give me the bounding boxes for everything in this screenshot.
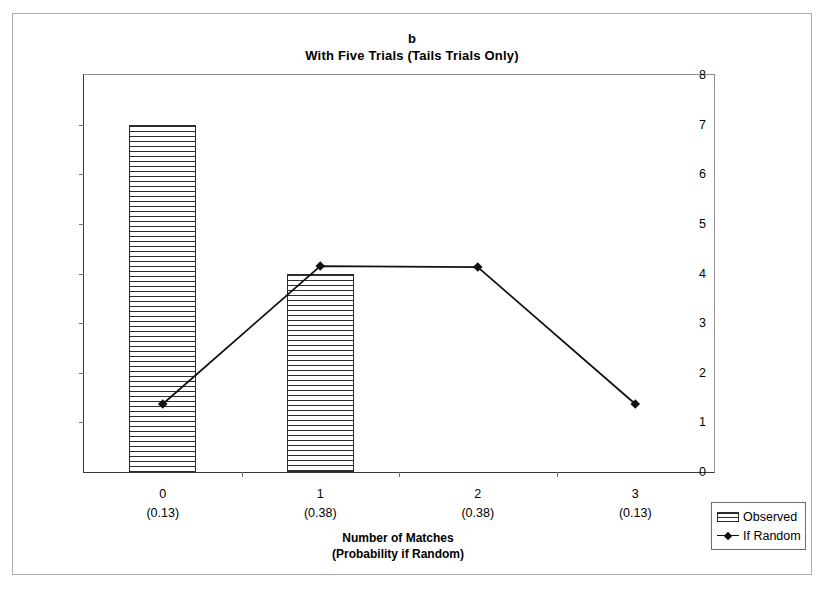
x-category-probability: (0.13) xyxy=(575,504,695,523)
plot-inner: Number of Principals 012345678 0(0.13)1(… xyxy=(84,75,714,472)
legend-label-observed: Observed xyxy=(743,510,797,524)
x-axis-title: Number of Matches (Probability if Random… xyxy=(83,530,713,562)
legend: Observed If Random xyxy=(711,502,806,550)
x-category-label: 1(0.38) xyxy=(260,485,380,523)
x-category-label: 2(0.38) xyxy=(418,485,538,523)
diamond-marker-icon xyxy=(724,531,732,539)
x-axis-title-line2: (Probability if Random) xyxy=(83,546,713,562)
legend-label-if-random: If Random xyxy=(743,529,801,543)
bar-swatch-icon xyxy=(717,512,739,522)
x-category-probability: (0.13) xyxy=(103,504,223,523)
panel-letter: b xyxy=(13,30,811,47)
plot-area: Number of Principals 012345678 0(0.13)1(… xyxy=(83,74,715,473)
chart-title: b With Five Trials (Tails Trials Only) xyxy=(13,30,811,64)
x-category-label: 3(0.13) xyxy=(575,485,695,523)
if-random-polyline xyxy=(163,266,636,404)
x-category-value: 0 xyxy=(159,487,166,501)
x-category-value: 1 xyxy=(317,487,324,501)
x-axis-title-line1: Number of Matches xyxy=(342,531,453,545)
line-marker-swatch-icon xyxy=(717,531,739,541)
x-category-label: 0(0.13) xyxy=(103,485,223,523)
x-category-value: 3 xyxy=(632,487,639,501)
if-random-line-series xyxy=(84,75,714,472)
x-category-probability: (0.38) xyxy=(260,504,380,523)
legend-item-if-random: If Random xyxy=(717,526,800,545)
x-category-probability: (0.38) xyxy=(418,504,538,523)
legend-item-observed: Observed xyxy=(717,507,800,526)
figure-frame: b With Five Trials (Tails Trials Only) N… xyxy=(12,13,812,575)
x-tick-mark xyxy=(399,472,400,477)
x-category-value: 2 xyxy=(474,487,481,501)
chart-title-text: With Five Trials (Tails Trials Only) xyxy=(13,47,811,64)
x-tick-mark xyxy=(242,472,243,477)
x-tick-mark xyxy=(557,472,558,477)
